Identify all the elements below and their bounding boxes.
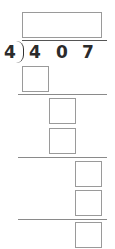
dividend-digit-3: 7	[82, 42, 94, 62]
subtraction-line-2	[18, 157, 107, 158]
subtract-box-1[interactable]	[22, 66, 49, 92]
subtraction-line-1	[18, 94, 107, 95]
division-bracket	[16, 41, 24, 63]
dividend-digit-1: 4	[29, 42, 41, 62]
remainder-box-2[interactable]	[75, 161, 102, 187]
divisor: 4	[4, 42, 16, 62]
remainder-box-1[interactable]	[49, 98, 76, 124]
subtract-box-3[interactable]	[75, 190, 102, 216]
final-remainder-box[interactable]	[75, 222, 102, 248]
division-bar	[22, 40, 107, 41]
subtraction-line-3	[18, 219, 107, 220]
quotient-answer-box[interactable]	[22, 12, 102, 38]
subtract-box-2[interactable]	[49, 128, 76, 154]
dividend-digit-2: 0	[56, 42, 68, 62]
